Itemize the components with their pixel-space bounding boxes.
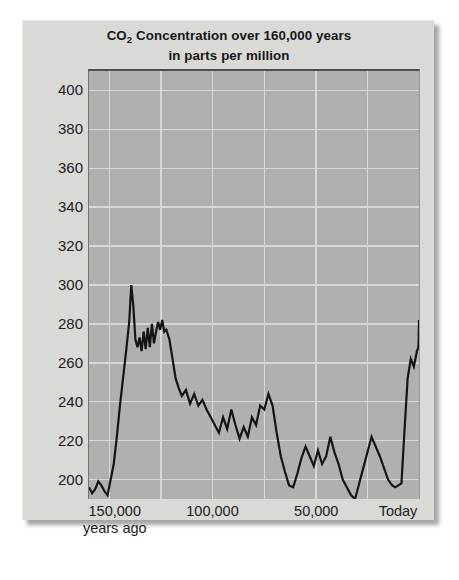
- y-tick-label: 400: [39, 80, 83, 97]
- y-axis-tick-labels: 400380360340320300280260240220200: [33, 69, 83, 499]
- y-tick-label: 200: [39, 471, 83, 488]
- chart-title-co: CO: [107, 28, 127, 43]
- x-tick-label: 100,000: [186, 503, 238, 520]
- plot-area: [89, 71, 419, 499]
- y-tick-label: 360: [39, 158, 83, 175]
- figure-card: CO2 Concentration over 160,000 years in …: [22, 20, 434, 520]
- x-tick-label-text: Today: [379, 503, 418, 519]
- y-tick-label: 260: [39, 354, 83, 371]
- x-tick-label-text: 100,000: [186, 503, 238, 519]
- y-tick-label: 340: [39, 197, 83, 214]
- y-tick-label: 240: [39, 393, 83, 410]
- chart-title-line2: in parts per million: [23, 48, 435, 64]
- y-tick-label: 280: [39, 315, 83, 332]
- y-tick-label: 320: [39, 236, 83, 253]
- x-tick-label-text: 150,000: [89, 503, 141, 519]
- x-tick-label: 50,000: [294, 503, 338, 520]
- x-axis-units-label: years ago: [83, 520, 147, 537]
- chart-title-rest: Concentration over 160,000 years: [132, 28, 351, 43]
- y-tick-label: 380: [39, 119, 83, 136]
- co2-line-chart: [89, 71, 419, 499]
- x-axis-tick-labels: 150,000years ago100,00050,000Today: [88, 503, 420, 543]
- y-tick-label: 300: [39, 276, 83, 293]
- x-tick-label-text: 50,000: [294, 503, 338, 519]
- plot-frame: [88, 69, 420, 499]
- x-tick-label: 150,000years ago: [83, 503, 147, 537]
- chart-title: CO2 Concentration over 160,000 years in …: [23, 28, 435, 64]
- x-tick-label: Today: [379, 503, 418, 520]
- y-tick-label: 220: [39, 432, 83, 449]
